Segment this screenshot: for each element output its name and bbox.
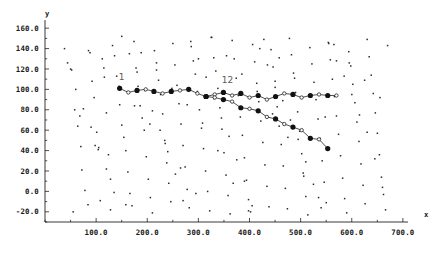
scatter-point [293, 72, 295, 74]
y-tick-label: 140.0 [16, 44, 39, 53]
scatter-point [188, 207, 190, 209]
y-tick-label: -20.0 [16, 207, 39, 216]
curve-marker-open [230, 94, 233, 97]
scatter-point [324, 116, 326, 118]
scatter-point [240, 116, 242, 118]
curve-marker-filled [325, 93, 330, 98]
scatter-point [193, 60, 195, 62]
y-tick-label: 60.0 [20, 126, 39, 135]
curve-marker-filled [308, 136, 313, 141]
scatter-point [250, 211, 252, 213]
scatter-point [67, 62, 69, 64]
x-tick-label: 600.0 [340, 228, 363, 237]
scatter-point [134, 105, 136, 107]
scatter-point [167, 151, 169, 153]
y-tick-label: 100.0 [16, 85, 39, 94]
scatter-point [236, 77, 238, 79]
scatter-point [191, 46, 193, 48]
curve-marker-filled [186, 87, 191, 92]
scatter-point [254, 61, 256, 63]
curve-marker-open [265, 115, 268, 118]
scatter-point [266, 186, 268, 188]
scatter-point [89, 52, 91, 54]
scatter-point [297, 139, 299, 141]
scatter-point [121, 36, 123, 38]
y-tick-label: 20.0 [20, 167, 39, 176]
scatter-point [263, 39, 265, 41]
scatter-point [176, 85, 178, 87]
scatter-point [70, 68, 72, 70]
scatter-point [313, 82, 315, 84]
scatter-point [252, 44, 254, 46]
scatter-point [342, 177, 344, 179]
scatter-point [385, 209, 387, 211]
scatter-point [270, 49, 272, 51]
scatter-point [207, 191, 209, 193]
scatter-point [131, 205, 133, 207]
scatter-point [244, 180, 246, 182]
scatter-point [195, 73, 197, 75]
y-tick-label: 40.0 [20, 146, 39, 155]
curve-marker-open [317, 138, 320, 141]
scatter-point [370, 74, 372, 76]
scatter-point [333, 44, 335, 46]
scatter-point [309, 47, 311, 49]
curve-marker-filled [273, 94, 278, 99]
scatter-point [158, 79, 160, 81]
scatter-point [87, 204, 89, 206]
curve-marker-open [283, 92, 286, 95]
scatter-point [278, 57, 280, 59]
scatter-point [343, 75, 345, 77]
scatter-point [344, 198, 346, 200]
scatter-point [137, 86, 139, 88]
scatter-point [74, 109, 76, 111]
scatter-point [199, 109, 201, 111]
x-tick-label: 700.0 [391, 228, 414, 237]
scatter-point [198, 58, 200, 60]
scatter-point [233, 58, 235, 60]
x-tick-label: 300.0 [187, 228, 210, 237]
scatter-point [318, 197, 320, 199]
scatter-point [282, 100, 284, 102]
scatter-point [368, 56, 370, 58]
scatter-point [287, 137, 289, 139]
scatter-point [133, 41, 135, 43]
scatter-point [229, 213, 231, 215]
curve-marker-open [178, 89, 181, 92]
y-axis-label: y [45, 9, 50, 18]
y-tick-label: 120.0 [16, 65, 39, 74]
scatter-point [98, 147, 100, 149]
scatter-point [315, 99, 317, 101]
scatter-plot-figure: 100.0200.0300.0400.0500.0600.0700.0 -20.… [0, 0, 439, 260]
scatter-point [164, 140, 166, 142]
scatter-point [248, 199, 250, 201]
scatter-point [351, 94, 353, 96]
scatter-point [320, 207, 322, 209]
scatter-point [374, 158, 376, 160]
scatter-point [321, 160, 323, 162]
curve-marker-filled [117, 86, 122, 91]
scatter-point [213, 57, 215, 59]
scatter-point [358, 141, 360, 143]
scatter-point [156, 62, 158, 64]
scatter-point [278, 125, 280, 127]
scatter-point [366, 39, 368, 41]
scatter-point [221, 117, 223, 119]
scatter-point [219, 107, 221, 109]
scatter-point [129, 53, 131, 55]
scatter-point [381, 176, 383, 178]
scatter-point [79, 115, 81, 117]
scatter-point [88, 50, 90, 52]
scatter-point [72, 211, 74, 213]
scatter-point [116, 75, 118, 77]
x-tick-label: 400.0 [238, 228, 261, 237]
curve-marker-filled [308, 93, 313, 98]
scatter-point [114, 55, 116, 57]
scatter-point [336, 60, 338, 62]
scatter-point [77, 125, 79, 127]
curve-marker-open [230, 100, 233, 103]
scatter-point [328, 43, 330, 45]
scatter-point [276, 106, 278, 108]
scatter-point [226, 55, 228, 57]
scatter-point [387, 45, 389, 47]
